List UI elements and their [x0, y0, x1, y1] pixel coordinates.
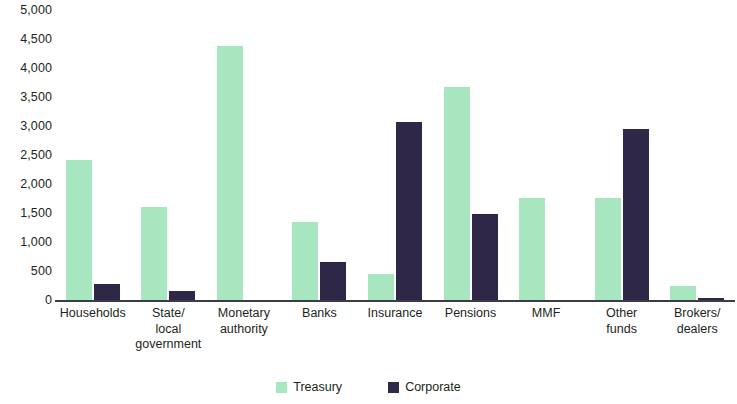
bar-group: [433, 10, 509, 300]
y-axis-tick-label: 0: [0, 294, 52, 307]
bar-corporate: [169, 291, 195, 300]
bar-group: [508, 10, 584, 300]
y-axis-tick-label: 1,500: [0, 207, 52, 220]
y-axis-tick-label: 500: [0, 265, 52, 278]
y-axis-tick-label: 4,500: [0, 33, 52, 46]
bar-corporate: [472, 214, 498, 300]
bar-corporate: [623, 129, 649, 300]
x-axis-category-line: Brokers/: [647, 306, 737, 322]
legend-label: Corporate: [405, 381, 461, 394]
legend-label: Treasury: [293, 381, 342, 394]
bar-group: [584, 10, 660, 300]
x-axis-category-line: dealers: [647, 322, 737, 338]
y-axis-tick-label: 3,000: [0, 120, 52, 133]
bar-treasury: [217, 46, 243, 300]
bar-corporate: [396, 122, 422, 300]
y-axis-tick-label: 1,000: [0, 236, 52, 249]
bar-treasury: [670, 286, 696, 300]
bar-treasury: [444, 87, 470, 300]
x-axis-category-line: government: [119, 337, 219, 353]
legend-swatch-corporate: [388, 382, 399, 393]
bar-treasury: [519, 198, 545, 300]
bar-corporate: [320, 262, 346, 300]
bar-treasury: [368, 274, 394, 300]
bar-group: [131, 10, 207, 300]
legend-swatch-treasury: [276, 382, 287, 393]
y-axis-tick-label: 3,500: [0, 91, 52, 104]
y-axis-tick-label: 2,500: [0, 149, 52, 162]
bar-group: [206, 10, 282, 300]
bar-treasury: [141, 207, 167, 300]
legend-item[interactable]: Corporate: [388, 381, 461, 394]
y-axis-tick-label: 4,000: [0, 62, 52, 75]
bar-group: [55, 10, 131, 300]
bar-treasury: [595, 198, 621, 300]
legend-item[interactable]: Treasury: [276, 381, 342, 394]
y-axis: 05001,0001,5002,0002,5003,0003,5004,0004…: [0, 0, 52, 310]
plot-area: [55, 10, 735, 300]
bar-group: [282, 10, 358, 300]
x-axis-line: [55, 300, 735, 302]
bar-treasury: [292, 222, 318, 300]
bar-corporate: [94, 284, 120, 300]
bar-group: [357, 10, 433, 300]
bar-chart: 05001,0001,5002,0002,5003,0003,5004,0004…: [0, 0, 737, 404]
bar-treasury: [66, 160, 92, 300]
y-axis-tick-label: 5,000: [0, 4, 52, 17]
x-axis-labels: HouseholdsState/localgovernmentMonetarya…: [55, 306, 735, 374]
chart-legend: TreasuryCorporate: [0, 381, 737, 394]
bar-group: [659, 10, 735, 300]
x-axis-category-line: authority: [194, 322, 294, 338]
y-axis-tick-label: 2,000: [0, 178, 52, 191]
x-axis-category-label: Brokers/dealers: [647, 306, 737, 337]
bar-corporate: [698, 298, 724, 300]
